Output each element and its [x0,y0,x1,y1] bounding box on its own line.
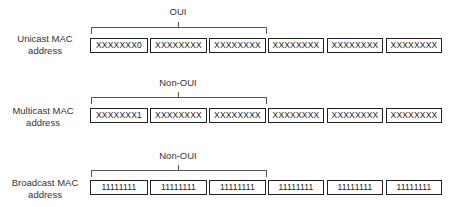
octet-2: XXXXXXXX [150,38,207,53]
non-oui-bracket [91,170,267,177]
octet-4: 11111111 [268,180,324,195]
label-line1: Broadcast MAC [4,177,86,189]
non-oui-bracket-label: Non-OUI [138,150,218,161]
octet-6: 11111111 [386,180,442,195]
octet-3: XXXXXXXX [209,38,266,53]
octet-5: 11111111 [327,180,383,195]
broadcast-label: Broadcast MAC address [4,177,86,201]
octet-1: XXXXXXX0 [90,38,148,53]
octet-6: XXXXXXXX [386,38,442,53]
octet-5: XXXXXXXX [327,108,383,123]
octet-1: 11111111 [90,180,148,195]
octet-2: XXXXXXXX [150,108,207,123]
octet-3: XXXXXXXX [209,108,266,123]
label-line1: Unicast MAC [6,33,84,45]
octet-1: XXXXXXX1 [90,108,148,123]
label-line2: address [4,117,82,129]
octet-6: XXXXXXXX [386,108,442,123]
label-line2: address [6,45,84,57]
non-oui-bracket [91,97,267,104]
oui-bracket-label: OUI [138,6,218,17]
label-line1: Multicast MAC [4,105,82,117]
octet-2: 11111111 [150,180,207,195]
octet-4: XXXXXXXX [268,38,324,53]
unicast-label: Unicast MAC address [6,33,84,57]
non-oui-bracket-label: Non-OUI [138,77,218,88]
octet-5: XXXXXXXX [327,38,383,53]
multicast-label: Multicast MAC address [4,105,82,129]
octet-4: XXXXXXXX [268,108,324,123]
oui-bracket [91,27,267,34]
octet-3: 11111111 [209,180,266,195]
label-line2: address [4,189,86,201]
